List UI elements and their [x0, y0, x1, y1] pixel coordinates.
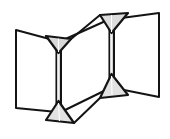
figure-canvas	[0, 0, 170, 139]
crease-lower-right	[112, 76, 113, 95]
hinged-panel-diagram	[0, 0, 170, 139]
